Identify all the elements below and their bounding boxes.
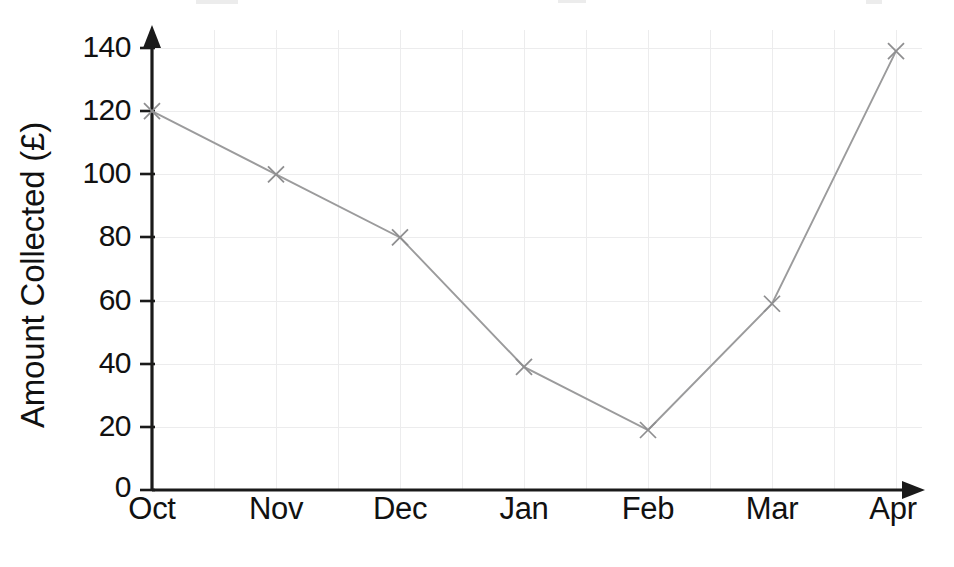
chart-page: 140 120 100 80 60 40 20 0 Oct Nov Dec Ja… [0, 0, 954, 567]
line-chart: 140 120 100 80 60 40 20 0 Oct Nov Dec Ja… [0, 0, 954, 567]
scan-artifacts [196, 0, 882, 4]
grid-horizontal [152, 48, 922, 427]
y-tick-label-60: 60 [99, 283, 131, 316]
x-tick-label-oct: Oct [128, 491, 176, 526]
x-tick-labels: Oct Nov Dec Jan Feb Mar Apr [128, 491, 916, 526]
y-axis-arrow-icon [143, 25, 161, 48]
x-tick-label-dec: Dec [373, 491, 427, 526]
y-tick-label-20: 20 [99, 409, 131, 442]
y-axis [143, 25, 161, 490]
y-tick-label-80: 80 [99, 219, 131, 252]
y-tick-labels: 140 120 100 80 60 40 20 0 [82, 30, 131, 503]
x-tick-label-nov: Nov [249, 491, 304, 526]
x-tick-label-mar: Mar [746, 491, 799, 526]
x-tick-label-jan: Jan [499, 491, 548, 526]
x-tick-label-feb: Feb [622, 491, 675, 526]
y-tick-label-140: 140 [82, 30, 131, 63]
y-tick-label-40: 40 [99, 346, 131, 379]
y-axis-title: Amount Collected (£) [14, 122, 51, 428]
y-tick-label-120: 120 [82, 93, 131, 126]
y-tick-label-100: 100 [82, 156, 131, 189]
x-tick-label-apr: Apr [869, 491, 916, 526]
